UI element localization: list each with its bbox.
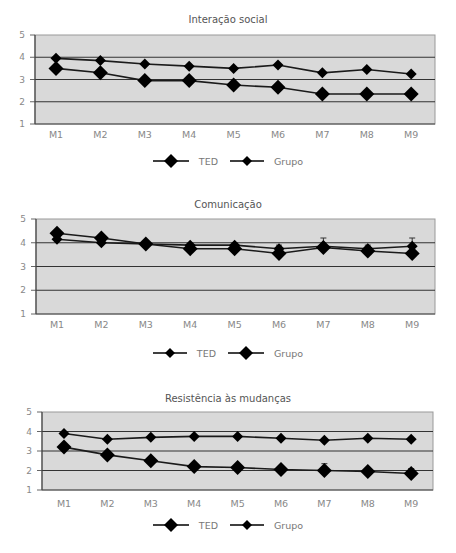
large-diamond-icon	[153, 517, 189, 533]
legend-label: TED	[199, 520, 218, 531]
x-tick-label: M9	[404, 498, 418, 509]
y-tick-label: 1	[26, 485, 32, 495]
x-tick-label: M6	[274, 498, 288, 509]
x-tick-label: M4	[187, 498, 201, 509]
small-diamond-icon	[230, 517, 264, 533]
x-tick-label: M5	[230, 498, 244, 509]
legend-item-ted: TED	[153, 517, 218, 533]
y-tick-label: 2	[26, 466, 32, 476]
y-tick-label: 3	[26, 446, 32, 456]
x-tick-label: M3	[144, 498, 158, 509]
x-tick-label: M2	[100, 498, 114, 509]
x-tick-label: M1	[57, 498, 71, 509]
chart-resistencia-mudancas: Resistência às mudanças 12345M1M2M3M4M5M…	[0, 0, 456, 553]
x-tick-label: M8	[361, 498, 375, 509]
y-tick-label: 4	[26, 427, 32, 437]
x-tick-label: M7	[317, 498, 331, 509]
plot-area: 12345M1M2M3M4M5M6M7M8M9	[0, 0, 456, 553]
legend-item-grupo: Grupo	[230, 517, 303, 533]
y-tick-label: 5	[26, 407, 32, 417]
legend: TED Grupo	[0, 517, 456, 533]
legend-label: Grupo	[274, 520, 303, 531]
